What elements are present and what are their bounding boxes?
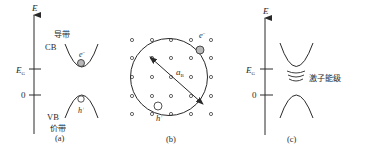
energy-axis-label: E (31, 3, 38, 13)
exciton-levels-label: 激子能级 (309, 73, 341, 83)
caption-b: (b) (166, 134, 176, 144)
gap-label: EG (245, 65, 256, 76)
exciton-levels (287, 71, 305, 81)
panel-a: E EG 0 导带 CB e− h+ VB 价带 (a) (15, 3, 98, 143)
valence-band-curve (280, 95, 313, 118)
valence-band-label: VB (47, 112, 59, 122)
energy-axis-label: E (262, 6, 269, 16)
bohr-radius-label: aB (176, 67, 185, 78)
electron-icon (196, 46, 204, 54)
bohr-radius-arrow (150, 57, 203, 104)
hole-label: h+ (156, 113, 163, 123)
hole-label: h+ (78, 106, 85, 115)
electron-icon (78, 60, 85, 67)
caption-a: (a) (55, 133, 65, 143)
conduction-band-label: CB (45, 42, 57, 52)
valence-band-cn-label: 价带 (50, 124, 66, 133)
electron-label: e− (199, 30, 206, 40)
panel-c: E EG 0 激子能级 (c) (245, 6, 341, 144)
caption-c: (c) (287, 134, 297, 144)
zero-label: 0 (252, 90, 257, 100)
hole-icon (78, 96, 84, 102)
hole-icon (154, 102, 162, 110)
gap-label: EG (15, 65, 26, 76)
conduction-band-cn-label: 导带 (54, 30, 70, 39)
zero-label: 0 (21, 90, 26, 100)
panel-b: aB e− h+ (b) (130, 30, 212, 144)
exciton-diagram: E EG 0 导带 CB e− h+ VB 价带 (a) (0, 0, 365, 154)
conduction-band-curve (280, 43, 313, 67)
electron-label: e− (79, 50, 86, 59)
